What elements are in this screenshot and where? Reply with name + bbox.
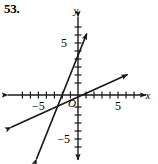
tick-labels-group: −5 5 5 −5 <box>32 36 121 146</box>
x-tick-label-neg5: −5 <box>32 99 45 113</box>
axis-labels-group: x y O <box>68 4 151 109</box>
x-tick-label-pos5: 5 <box>115 99 121 113</box>
y-axis-label: y <box>73 4 79 16</box>
y-tick-label-pos5: 5 <box>61 36 67 50</box>
coordinate-graph: x y O −5 5 5 −5 <box>0 0 158 164</box>
figure-container: 53. <box>0 0 158 164</box>
x-axis-label: x <box>145 89 151 101</box>
y-tick-label-neg5: −5 <box>57 132 70 146</box>
origin-label: O <box>68 97 76 109</box>
